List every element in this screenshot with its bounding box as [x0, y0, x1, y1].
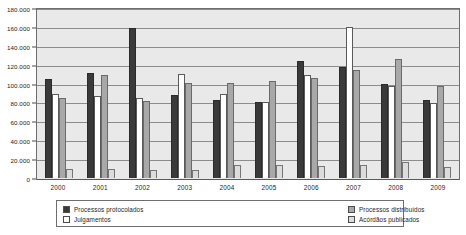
y-axis-tick-label: 0: [26, 176, 30, 183]
bar: [276, 165, 283, 178]
bar: [94, 96, 101, 178]
legend-label: Processos distribuídos: [359, 206, 425, 213]
bar-group-2002: [122, 10, 164, 178]
bar: [444, 167, 451, 178]
bar: [150, 170, 157, 179]
bar: [213, 100, 220, 178]
x-axis: 2000200120022003200420052006200720082009: [37, 181, 459, 195]
bar: [234, 165, 241, 178]
legend-label: Processos protocolados: [74, 206, 143, 213]
x-axis-tick-label: 2004: [206, 181, 248, 195]
x-axis-tick-label: 2000: [37, 181, 79, 195]
bar: [66, 169, 73, 178]
legend-item-processos-distribuidos: Processos distribuídos: [230, 206, 397, 213]
y-axis-tick-label: 140.000: [7, 43, 30, 50]
x-axis-tick-label: 2007: [332, 181, 374, 195]
x-axis-tick-label: 2005: [248, 181, 290, 195]
bar: [395, 59, 402, 178]
bar: [192, 170, 199, 178]
bar: [87, 73, 94, 178]
y-axis-tick-label: 80.000: [10, 100, 30, 107]
bar: [129, 28, 136, 178]
bar: [255, 102, 262, 178]
bar: [339, 67, 346, 178]
bar: [381, 84, 388, 178]
bar: [402, 162, 409, 178]
bar: [59, 98, 66, 178]
bar: [318, 166, 325, 178]
legend-swatch-icon: [348, 206, 355, 213]
x-axis-tick-label: 2008: [375, 181, 417, 195]
bar: [136, 98, 143, 178]
bar-groups: [38, 10, 458, 178]
bar: [346, 27, 353, 178]
bar: [143, 101, 150, 178]
bar: [220, 94, 227, 178]
legend-swatch-icon: [63, 206, 70, 213]
legend-row: Julgamentos Acórdãos publicados: [63, 214, 397, 224]
chart-legend: Processos protocolados Processos distrib…: [56, 200, 404, 227]
plot-area: [36, 8, 460, 180]
bar: [227, 83, 234, 178]
bar: [101, 75, 108, 178]
bar-group-2004: [206, 10, 248, 178]
legend-label: Acórdãos publicados: [359, 216, 419, 223]
bar: [185, 83, 192, 178]
x-axis-tick-label: 2009: [417, 181, 459, 195]
y-axis-tick-label: 180.000: [7, 6, 30, 13]
bar-group-2007: [332, 10, 374, 178]
bar-group-2001: [80, 10, 122, 178]
bar-group-2005: [248, 10, 290, 178]
x-axis-tick-label: 2006: [290, 181, 332, 195]
y-axis-tick-label: 20.000: [10, 157, 30, 164]
bar: [262, 102, 269, 179]
bar: [304, 75, 311, 178]
y-axis-tick-label: 100.000: [7, 81, 30, 88]
bar-group-2009: [416, 10, 458, 178]
legend-item-acordaos-publicados: Acórdãos publicados: [230, 216, 397, 223]
y-axis-tick-label: 40.000: [10, 138, 30, 145]
bar-group-2003: [164, 10, 206, 178]
bar: [360, 165, 367, 178]
bar-group-2006: [290, 10, 332, 178]
y-axis-tick-label: 60.000: [10, 119, 30, 126]
bar: [388, 86, 395, 178]
bar: [311, 78, 318, 178]
bar: [269, 81, 276, 178]
legend-label: Julgamentos: [74, 216, 111, 223]
bar-group-2008: [374, 10, 416, 178]
y-axis-tick-label: 160.000: [7, 24, 30, 31]
x-axis-tick-label: 2002: [121, 181, 163, 195]
bar: [108, 169, 115, 178]
bar-group-2000: [38, 10, 80, 178]
bar: [171, 95, 178, 178]
legend-swatch-icon: [348, 216, 355, 223]
legend-item-julgamentos: Julgamentos: [63, 216, 230, 223]
bar: [52, 94, 59, 178]
legend-item-processos-protocolados: Processos protocolados: [63, 206, 230, 213]
x-axis-tick-label: 2003: [164, 181, 206, 195]
bar: [297, 61, 304, 178]
bar: [45, 79, 52, 178]
legend-row: Processos protocolados Processos distrib…: [63, 204, 397, 214]
legend-swatch-icon: [63, 216, 70, 223]
bar: [178, 74, 185, 178]
gridline: [37, 179, 459, 180]
bar: [423, 100, 430, 178]
bar: [353, 70, 360, 178]
y-axis-tick-label: 120.000: [7, 62, 30, 69]
y-axis: 180.000160.000140.000120.000100.00080.00…: [0, 8, 36, 180]
x-axis-tick-label: 2001: [79, 181, 121, 195]
bar-chart-figure: 180.000160.000140.000120.000100.00080.00…: [0, 0, 466, 235]
bar: [437, 86, 444, 178]
bar: [430, 103, 437, 178]
